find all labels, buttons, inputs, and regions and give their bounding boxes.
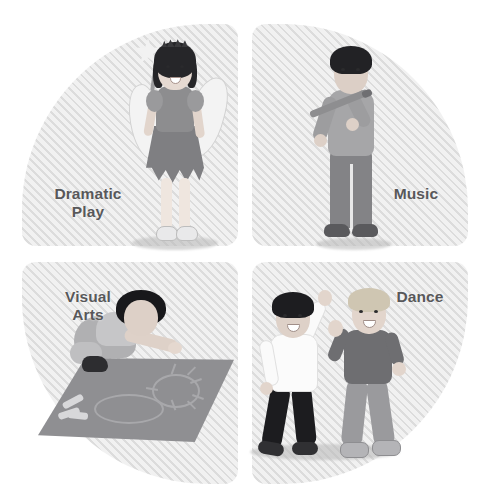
flute-boy-illustration (312, 38, 394, 246)
fairy-eye-left (166, 65, 170, 68)
fairy-shoe-left (156, 226, 178, 241)
quadrant-label-music: Music (374, 185, 458, 203)
fairy-hair (154, 42, 196, 78)
fairy-sleeve-left (146, 90, 163, 112)
flute-boy-shoe-left (324, 224, 350, 237)
dance2-hand-right (392, 362, 406, 376)
creative-arts-diagram: Dramatic Play Music (0, 0, 487, 504)
dance1-shoe-right (292, 442, 318, 455)
dance2-shoe-right (372, 440, 401, 456)
chalk-cloud-drawing (94, 394, 164, 424)
dance1-eye-left (283, 314, 287, 317)
flute-boy-hand-right (346, 118, 359, 131)
quadrant-label-visual-arts: Visual Arts (36, 288, 140, 325)
flute-boy-eye-right (356, 68, 360, 71)
artist-shoe (82, 356, 108, 372)
flute-boy-hair (330, 46, 372, 74)
dance1-hand-raised (318, 290, 332, 306)
artist-hand (168, 342, 182, 354)
dance1-hand-down (260, 382, 273, 395)
flute-boy-shoe-right (352, 224, 378, 237)
fairy-eye-right (180, 65, 184, 68)
fairy-sleeve-right (187, 90, 204, 112)
dance2-eye-left (359, 310, 363, 313)
fairy-costume-illustration (126, 32, 224, 250)
fairy-leg-right (179, 178, 190, 230)
quadrant-label-dramatic-play: Dramatic Play (36, 185, 140, 222)
dance-child-left-illustration (262, 286, 358, 464)
fairy-shoe-right (176, 226, 198, 241)
flute-boy-leg-split (350, 164, 353, 228)
dance1-eye-right (298, 314, 302, 317)
fairy-leg-left (161, 178, 172, 230)
flute-boy-hand-left (314, 134, 327, 147)
flute-boy-eye-left (341, 68, 345, 71)
dance1-hair (272, 292, 314, 318)
dance2-eye-right (374, 310, 378, 313)
quadrant-label-dance: Dance (378, 288, 462, 306)
dance1-leg-right (291, 385, 317, 447)
dance2-leg-right (366, 379, 396, 447)
